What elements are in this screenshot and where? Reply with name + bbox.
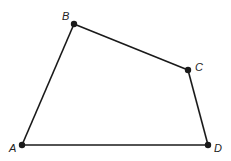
quadrilateral-diagram: ABCD: [0, 0, 231, 161]
vertex-D: [205, 142, 211, 148]
vertex-label-D: D: [214, 142, 222, 154]
vertex-label-B: B: [62, 10, 69, 22]
diagram-canvas: ABCD: [0, 0, 231, 161]
vertex-label-A: A: [8, 142, 16, 154]
vertex-C: [185, 67, 191, 73]
edge-CD: [188, 70, 208, 145]
vertex-B: [71, 21, 77, 27]
edge-AB: [22, 24, 74, 145]
vertex-A: [19, 142, 25, 148]
vertex-label-C: C: [195, 61, 203, 73]
edge-BC: [74, 24, 188, 70]
